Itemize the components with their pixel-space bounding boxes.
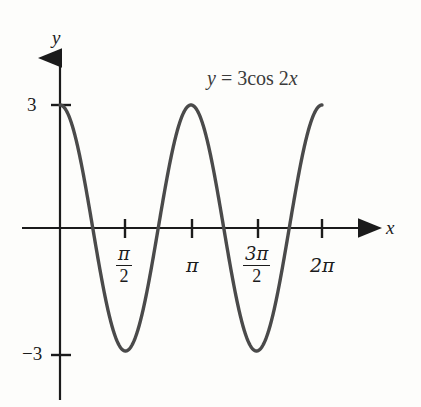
equation-coefficient: 3cos 2 (237, 67, 289, 89)
cosine-graph-figure: y x y = 3cos 2x 3 −3 π 2 π 3π 2 2π (0, 0, 421, 407)
x-tick-label-2pi: 2π (310, 256, 335, 275)
fraction-denominator: 2 (243, 266, 270, 286)
equation-x-term: x (289, 67, 298, 89)
equation-annotation: y = 3cos 2x (207, 68, 298, 88)
fraction-numerator: 3π (243, 245, 270, 266)
fraction-pi-over-2: π 2 (116, 245, 132, 286)
fraction-numerator: π (116, 245, 132, 266)
x-tick-label-3pi-over-2: 3π 2 (243, 245, 270, 286)
equation-equals: = (216, 67, 237, 89)
fraction-denominator: 2 (116, 266, 132, 286)
x-axis-label: x (386, 218, 394, 237)
y-tick-label-3: 3 (27, 95, 37, 114)
fraction-3pi-over-2: 3π 2 (243, 245, 270, 286)
plot-canvas (0, 0, 421, 407)
x-tick-label-pi: π (186, 256, 199, 275)
y-tick-label-minus-3: −3 (22, 344, 42, 363)
equation-y-term: y (207, 67, 216, 89)
y-axis-label: y (52, 28, 60, 47)
x-tick-label-pi-over-2: π 2 (116, 245, 132, 286)
